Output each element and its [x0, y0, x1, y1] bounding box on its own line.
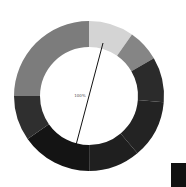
donut-chart: 100%: [0, 0, 186, 187]
donut-segment: [14, 21, 89, 96]
legend-swatch: [171, 163, 186, 187]
center-label: 100%: [74, 93, 86, 98]
